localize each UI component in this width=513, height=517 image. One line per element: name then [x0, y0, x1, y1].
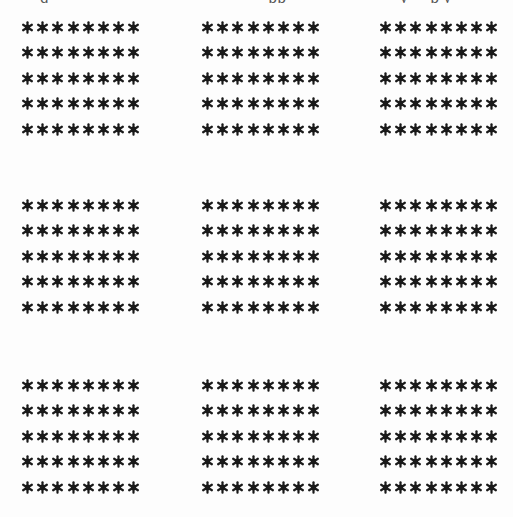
- cut-text-fragment: p y: [430, 0, 451, 3]
- asterisk-icon: [126, 300, 141, 314]
- asterisk-icon: [126, 429, 141, 443]
- asterisk-icon: [484, 224, 499, 238]
- asterisk-icon: [81, 122, 96, 136]
- asterisk-icon: [230, 122, 245, 136]
- asterisk-icon: [246, 198, 261, 212]
- asterisk-row: [378, 249, 500, 263]
- asterisk-icon: [439, 224, 454, 238]
- asterisk-icon: [35, 455, 50, 469]
- asterisk-icon: [246, 224, 261, 238]
- asterisk-icon: [200, 71, 215, 85]
- asterisk-icon: [35, 275, 50, 289]
- asterisk-icon: [126, 46, 141, 60]
- asterisk-icon: [200, 97, 215, 111]
- asterisk-icon: [81, 249, 96, 263]
- asterisk-icon: [306, 46, 321, 60]
- asterisk-icon: [230, 455, 245, 469]
- asterisk-icon: [246, 300, 261, 314]
- asterisk-icon: [469, 378, 484, 392]
- asterisk-icon: [200, 404, 215, 418]
- asterisk-icon: [200, 480, 215, 494]
- asterisk-row: [20, 46, 142, 60]
- asterisk-icon: [424, 122, 439, 136]
- asterisk-icon: [215, 275, 230, 289]
- asterisk-icon: [454, 455, 469, 469]
- asterisk-icon: [20, 71, 35, 85]
- asterisk-icon: [215, 249, 230, 263]
- asterisk-icon: [230, 275, 245, 289]
- asterisk-icon: [306, 249, 321, 263]
- asterisk-icon: [35, 224, 50, 238]
- asterisk-icon: [306, 480, 321, 494]
- asterisk-icon: [111, 46, 126, 60]
- asterisk-icon: [96, 20, 111, 34]
- asterisk-icon: [424, 275, 439, 289]
- asterisk-icon: [276, 404, 291, 418]
- asterisk-icon: [215, 455, 230, 469]
- asterisk-icon: [246, 429, 261, 443]
- cut-off-text-line: g pp y p y: [0, 0, 513, 3]
- asterisk-icon: [215, 480, 230, 494]
- asterisk-icon: [96, 455, 111, 469]
- asterisk-icon: [50, 249, 65, 263]
- asterisk-icon: [20, 122, 35, 136]
- asterisk-icon: [291, 20, 306, 34]
- asterisk-icon: [306, 198, 321, 212]
- asterisk-icon: [439, 455, 454, 469]
- asterisk-icon: [291, 198, 306, 212]
- asterisk-icon: [230, 404, 245, 418]
- asterisk-icon: [81, 46, 96, 60]
- asterisk-icon: [66, 198, 81, 212]
- asterisk-icon: [215, 198, 230, 212]
- asterisk-icon: [200, 378, 215, 392]
- asterisk-icon: [276, 20, 291, 34]
- asterisk-icon: [246, 480, 261, 494]
- asterisk-icon: [306, 71, 321, 85]
- asterisk-icon: [393, 122, 408, 136]
- asterisk-icon: [81, 71, 96, 85]
- asterisk-icon: [408, 429, 423, 443]
- asterisk-icon: [66, 122, 81, 136]
- asterisk-icon: [126, 249, 141, 263]
- asterisk-icon: [20, 249, 35, 263]
- asterisk-icon: [111, 97, 126, 111]
- asterisk-icon: [66, 249, 81, 263]
- asterisk-row: [200, 97, 322, 111]
- asterisk-icon: [81, 275, 96, 289]
- asterisk-icon: [66, 378, 81, 392]
- asterisk-icon: [439, 429, 454, 443]
- asterisk-icon: [66, 300, 81, 314]
- asterisk-icon: [484, 455, 499, 469]
- asterisk-row: [200, 378, 322, 392]
- asterisk-icon: [126, 455, 141, 469]
- asterisk-row: [378, 404, 500, 418]
- asterisk-row: [200, 275, 322, 289]
- asterisk-icon: [424, 46, 439, 60]
- asterisk-icon: [20, 378, 35, 392]
- asterisk-icon: [378, 275, 393, 289]
- asterisk-icon: [408, 97, 423, 111]
- asterisk-icon: [261, 46, 276, 60]
- asterisk-icon: [246, 249, 261, 263]
- asterisk-icon: [50, 46, 65, 60]
- asterisk-icon: [230, 224, 245, 238]
- asterisk-icon: [408, 198, 423, 212]
- asterisk-icon: [50, 122, 65, 136]
- asterisk-icon: [378, 122, 393, 136]
- asterisk-icon: [306, 404, 321, 418]
- asterisk-icon: [96, 404, 111, 418]
- asterisk-icon: [378, 429, 393, 443]
- asterisk-row: [378, 378, 500, 392]
- asterisk-icon: [393, 46, 408, 60]
- asterisk-row: [200, 404, 322, 418]
- asterisk-icon: [378, 378, 393, 392]
- asterisk-icon: [408, 20, 423, 34]
- asterisk-icon: [20, 20, 35, 34]
- asterisk-row: [20, 480, 142, 494]
- asterisk-icon: [35, 480, 50, 494]
- asterisk-icon: [261, 224, 276, 238]
- asterisk-icon: [306, 20, 321, 34]
- asterisk-icon: [454, 122, 469, 136]
- asterisk-icon: [96, 300, 111, 314]
- asterisk-icon: [291, 46, 306, 60]
